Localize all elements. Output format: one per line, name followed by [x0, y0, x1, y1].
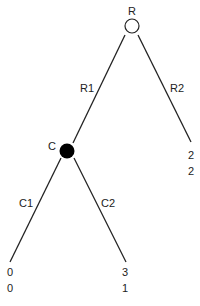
edge-c1 — [10, 158, 61, 262]
payoff-r2-row1: 2 — [188, 149, 194, 161]
edge-c2-label: C2 — [101, 197, 115, 209]
edge-r2-label: R2 — [170, 82, 184, 94]
payoff-c2-row1: 3 — [122, 266, 128, 278]
root-node — [125, 19, 139, 33]
root-node-label: R — [128, 5, 136, 17]
chance-node-label: C — [48, 140, 56, 152]
payoff-r2-row2: 2 — [188, 165, 194, 177]
game-tree-canvas — [0, 0, 200, 306]
edge-c1-label: C1 — [19, 197, 33, 209]
payoff-c2-row2: 1 — [122, 282, 128, 294]
edge-c2 — [74, 158, 126, 262]
payoff-c1-row1: 0 — [7, 266, 13, 278]
chance-node — [60, 144, 75, 159]
edge-r1-label: R1 — [80, 82, 94, 94]
payoff-c1-row2: 0 — [7, 282, 13, 294]
